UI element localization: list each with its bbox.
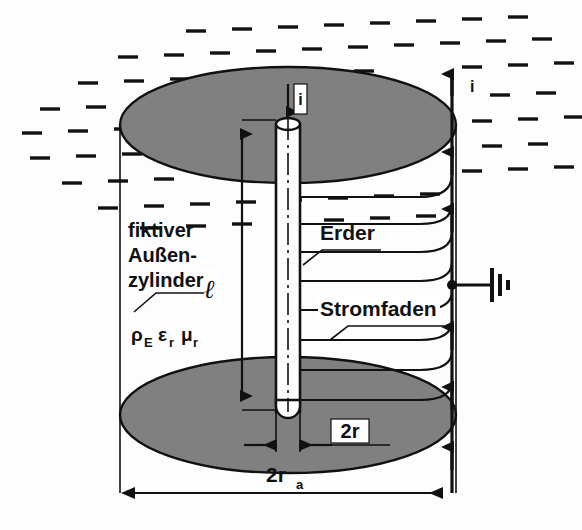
current-top-label: i bbox=[298, 91, 302, 108]
fictitious-cylinder-line-3: zylinder bbox=[128, 269, 204, 291]
current-filament-label: Stromfaden bbox=[320, 297, 437, 320]
material-rho: ρ bbox=[131, 324, 143, 345]
material-mu-sub: r bbox=[193, 335, 198, 350]
outer-diameter-label-sub: a bbox=[296, 477, 304, 492]
figure-root: i i ℓ 2r bbox=[0, 0, 582, 530]
fictitious-cylinder-label: fiktiver Außen- zylinder bbox=[128, 219, 204, 291]
inner-diameter-label: 2r bbox=[341, 420, 360, 442]
current-right-label: i bbox=[470, 78, 474, 95]
material-eps: ε bbox=[158, 324, 167, 345]
fictitious-cylinder-line-2: Außen- bbox=[128, 244, 197, 266]
material-eps-sub: r bbox=[169, 335, 174, 350]
grounding-rod-diagram: i i ℓ 2r bbox=[0, 0, 582, 530]
material-rho-sub: E bbox=[144, 335, 153, 350]
length-label: ℓ bbox=[204, 275, 215, 304]
fictitious-cylinder-line-1: fiktiver bbox=[128, 219, 194, 241]
outer-diameter-label-main: 2r bbox=[266, 463, 286, 486]
earth-electrode-label: Erder bbox=[320, 221, 375, 244]
material-mu: μ bbox=[181, 324, 193, 345]
